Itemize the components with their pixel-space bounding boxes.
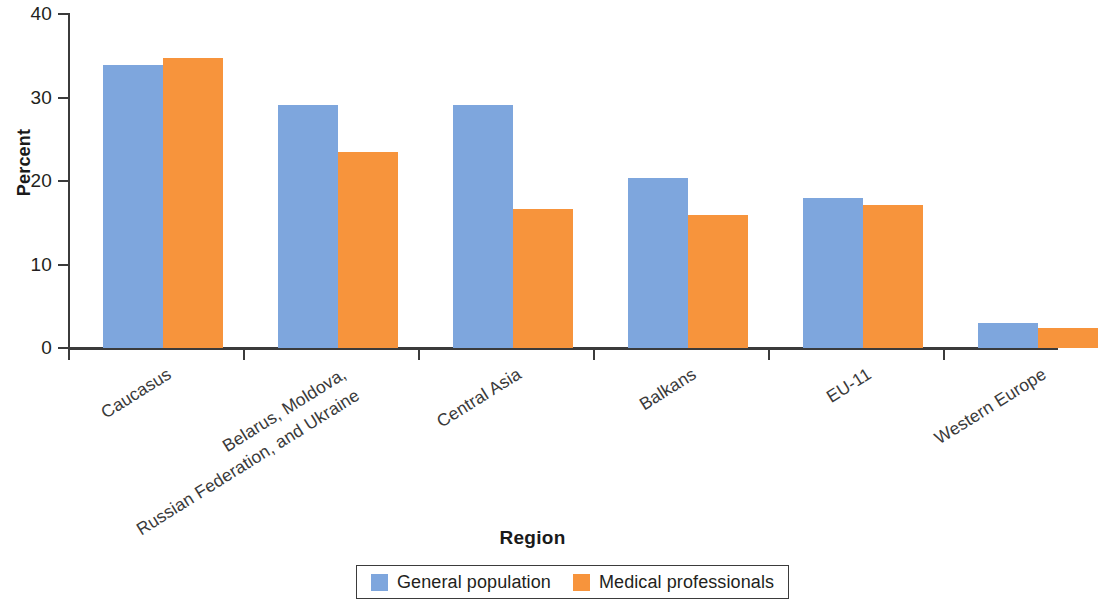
x-axis-title: Region xyxy=(0,527,1065,549)
x-axis-tick xyxy=(768,347,770,360)
category-label-line: Caucasus xyxy=(97,364,174,423)
x-axis-tick xyxy=(418,347,420,360)
legend-swatch-icon xyxy=(371,574,388,591)
bar-medical-professionals xyxy=(338,152,398,348)
bar-general-population xyxy=(978,323,1038,348)
bar-general-population xyxy=(103,65,163,348)
legend-label: General population xyxy=(397,572,551,593)
category-label-line: Central Asia xyxy=(433,364,525,432)
legend-item[interactable]: General population xyxy=(371,572,551,593)
bar-general-population xyxy=(628,178,688,348)
bar-general-population xyxy=(803,198,863,348)
plot-area xyxy=(68,14,1058,348)
bar-general-population xyxy=(453,105,513,348)
bar-general-population xyxy=(278,105,338,348)
category-label-line: EU-11 xyxy=(823,364,875,407)
x-axis-tick xyxy=(593,347,595,360)
category-label-line: Western Europe xyxy=(931,364,1050,449)
y-axis-tick-label: 40 xyxy=(8,4,52,23)
y-axis-tick-label: 30 xyxy=(8,88,52,107)
bar-medical-professionals xyxy=(163,58,223,348)
bar-medical-professionals xyxy=(863,205,923,348)
bar-medical-professionals xyxy=(688,215,748,348)
category-label-line: Balkans xyxy=(636,364,700,414)
bar-medical-professionals xyxy=(513,209,573,348)
x-axis-tick xyxy=(243,347,245,360)
y-axis-tick-label: 10 xyxy=(8,255,52,274)
y-axis-tick-label: 0 xyxy=(8,338,52,357)
legend-label: Medical professionals xyxy=(599,572,774,593)
x-axis-tick xyxy=(943,347,945,360)
chart-legend: General populationMedical professionals xyxy=(356,565,789,599)
y-axis-tick-label: 20 xyxy=(8,171,52,190)
x-axis-tick xyxy=(68,347,70,360)
y-axis-title: Percent xyxy=(14,113,35,213)
bar-medical-professionals xyxy=(1038,328,1098,348)
legend-item[interactable]: Medical professionals xyxy=(573,572,774,593)
legend-swatch-icon xyxy=(573,574,590,591)
